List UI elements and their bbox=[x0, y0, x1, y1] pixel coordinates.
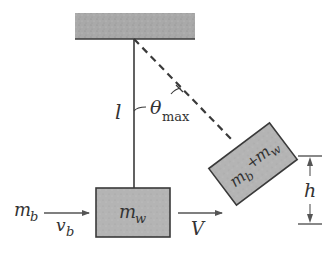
bullet-velocity-label: v b bbox=[56, 215, 74, 239]
swung-string-dashed bbox=[134, 39, 234, 142]
svg-text:θ: θ bbox=[150, 96, 162, 118]
svg-text:b: b bbox=[30, 209, 38, 224]
ceiling-support bbox=[75, 13, 195, 39]
combined-block: m b + m w bbox=[209, 123, 297, 205]
height-dimension: h bbox=[298, 156, 322, 224]
final-velocity-label: V bbox=[191, 218, 206, 239]
ballistic-pendulum-diagram: θ max l m w m b v b V m b + m w h bbox=[0, 0, 336, 255]
length-label: l bbox=[115, 100, 121, 124]
svg-text:max: max bbox=[162, 109, 190, 124]
height-label: h bbox=[304, 179, 316, 201]
length-leader bbox=[134, 107, 146, 111]
svg-text:w: w bbox=[135, 211, 146, 226]
block-mw: m w bbox=[96, 188, 170, 237]
svg-text:b: b bbox=[66, 224, 74, 239]
svg-text:m: m bbox=[14, 199, 31, 220]
svg-text:m: m bbox=[119, 201, 136, 222]
theta-max-label: θ max bbox=[150, 96, 190, 124]
svg-text:v: v bbox=[56, 215, 66, 235]
bullet-label: m b bbox=[14, 199, 38, 224]
